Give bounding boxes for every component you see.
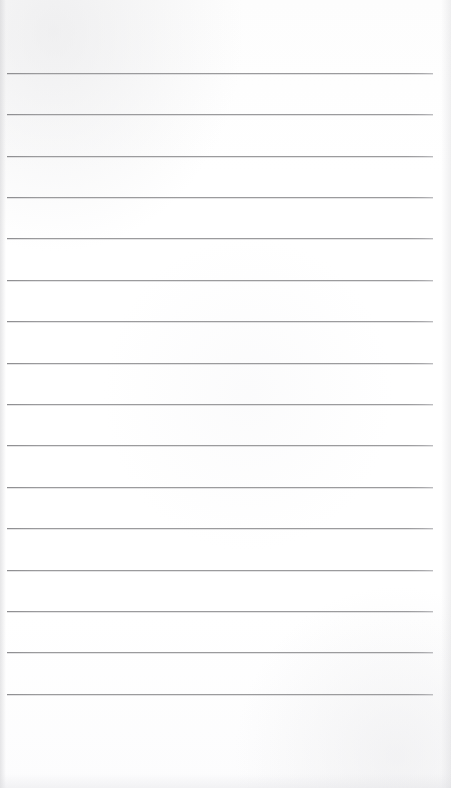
rule-line [7, 404, 433, 405]
rule-line [7, 321, 433, 322]
rule-line [7, 280, 433, 281]
rule-line [7, 197, 433, 198]
rule-line [7, 363, 433, 364]
ruled-lines-layer [0, 0, 451, 788]
rule-line [7, 156, 433, 157]
rule-line [7, 570, 433, 571]
rule-line [7, 611, 433, 612]
rule-line [7, 652, 433, 653]
rule-line [7, 528, 433, 529]
rule-line [7, 238, 433, 239]
rule-line [7, 114, 433, 115]
lined-paper-page [0, 0, 451, 788]
rule-line [7, 694, 433, 695]
rule-line [7, 73, 433, 74]
rule-line [7, 445, 433, 446]
rule-line [7, 487, 433, 488]
